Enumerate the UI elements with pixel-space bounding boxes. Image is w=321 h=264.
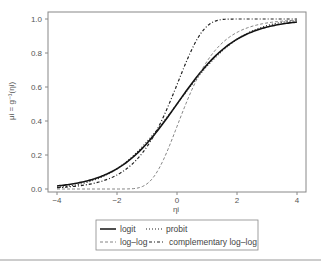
curve-logit — [57, 22, 297, 186]
y-tick-label: 0.0 — [31, 185, 43, 194]
chart: 0.00.20.40.60.81.0 −4−2024 ηi μi = g⁻¹(η… — [0, 0, 321, 264]
y-axis: 0.00.20.40.60.81.0 — [31, 15, 48, 194]
plot-curves — [57, 19, 297, 189]
legend-loglog-label: log–log — [120, 237, 148, 247]
legend-cloglog-label: complementary log–log — [169, 237, 257, 247]
x-tick-label: 0 — [175, 196, 180, 205]
x-axis: −4−2024 — [52, 192, 299, 205]
x-tick-label: 2 — [235, 196, 240, 205]
y-tick-label: 1.0 — [31, 15, 43, 24]
x-axis-label: ηi — [173, 205, 179, 214]
x-tick-label: −4 — [52, 196, 62, 205]
legend-logit-label: logit — [120, 224, 136, 234]
y-tick-label: 0.8 — [31, 49, 43, 58]
y-tick-label: 0.2 — [31, 151, 43, 160]
y-tick-label: 0.4 — [31, 117, 43, 126]
legend-probit-label: probit — [166, 224, 188, 234]
y-tick-label: 0.6 — [31, 83, 43, 92]
x-tick-label: −2 — [112, 196, 122, 205]
legend: logit probit log–log complementary log–l… — [96, 220, 258, 250]
plot-frame — [48, 12, 306, 192]
x-tick-label: 4 — [295, 196, 300, 205]
y-axis-label: μi = g⁻¹(ηi) — [7, 82, 16, 121]
